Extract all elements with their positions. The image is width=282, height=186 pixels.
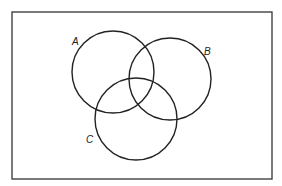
set-label-c: C — [86, 134, 94, 145]
universe-rectangle — [12, 12, 272, 179]
set-label-a: A — [71, 36, 79, 47]
venn-diagram: ABC — [0, 0, 282, 186]
set-circle-a — [72, 31, 154, 113]
set-label-b: B — [204, 46, 211, 57]
